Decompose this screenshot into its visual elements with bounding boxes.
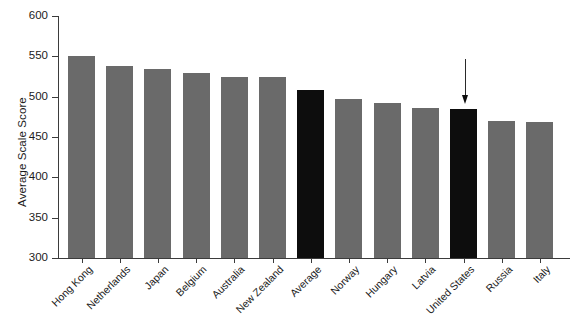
x-label-italy: Italy <box>530 263 552 285</box>
bar-hong-kong <box>68 56 95 258</box>
y-tick-label: 450 <box>2 130 48 142</box>
x-tick-mark <box>502 258 503 263</box>
x-tick-mark <box>464 258 465 263</box>
x-label-russia: Russia <box>483 263 514 294</box>
x-tick-mark <box>387 258 388 263</box>
bar-average <box>297 90 324 258</box>
bar-united-states <box>450 109 477 258</box>
x-tick-mark <box>425 258 426 263</box>
x-tick-mark <box>273 258 274 263</box>
x-label-japan: Japan <box>142 263 171 292</box>
annotation-arrow-icon <box>461 59 470 106</box>
bar-russia <box>488 121 515 258</box>
arrow-shaft <box>465 59 466 97</box>
x-tick-mark <box>349 258 350 263</box>
x-label-australia: Australia <box>209 263 246 300</box>
plot-area <box>58 16 570 258</box>
y-tick-label: 400 <box>2 170 48 182</box>
bar-japan <box>144 69 171 258</box>
x-label-hungary: Hungary <box>363 263 400 300</box>
y-tick-label: 600 <box>2 9 48 21</box>
bar-chart: Average Scale Score 60055050045040035030… <box>0 0 577 322</box>
y-tick-label: 500 <box>2 90 48 102</box>
bar-netherlands <box>106 66 133 258</box>
arrow-head <box>462 95 468 104</box>
x-tick-mark <box>234 258 235 263</box>
bar-australia <box>221 77 248 258</box>
x-label-latvia: Latvia <box>409 263 437 291</box>
bar-belgium <box>183 73 210 258</box>
bar-new-zealand <box>259 77 286 258</box>
x-tick-mark <box>158 258 159 263</box>
x-tick-mark <box>82 258 83 263</box>
x-tick-mark <box>196 258 197 263</box>
bar-italy <box>526 122 553 258</box>
x-tick-mark <box>311 258 312 263</box>
y-tick-label: 300 <box>2 251 48 263</box>
y-tick-label: 550 <box>2 49 48 61</box>
x-label-average: Average <box>287 263 323 299</box>
y-axis-title: Average Scale Score <box>16 31 30 274</box>
x-tick-mark <box>540 258 541 263</box>
bar-norway <box>335 99 362 258</box>
x-axis-line <box>58 258 570 259</box>
x-label-norway: Norway <box>328 263 362 297</box>
bar-hungary <box>374 103 401 258</box>
x-tick-mark <box>120 258 121 263</box>
x-label-belgium: Belgium <box>173 263 208 298</box>
y-tick-label: 350 <box>2 211 48 223</box>
bar-latvia <box>412 108 439 258</box>
